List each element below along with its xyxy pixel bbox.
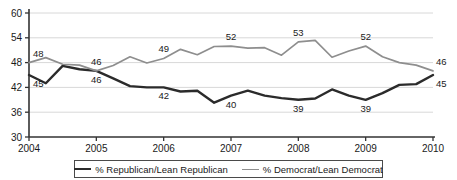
y-tick-label: 42 — [11, 82, 23, 93]
x-tick-label: 2004 — [18, 143, 41, 154]
x-tick-label: 2007 — [220, 143, 243, 154]
data-point-label: 42 — [158, 90, 169, 101]
series-lines — [29, 40, 433, 102]
y-tick-label: 54 — [11, 32, 23, 43]
legend-label-democrat: % Democrat/Lean Democrat — [263, 164, 383, 175]
y-axis: 303642485460 — [11, 8, 29, 143]
data-point-label: 53 — [293, 27, 304, 38]
data-point-label: 48 — [33, 48, 44, 59]
y-tick-label: 48 — [11, 57, 23, 68]
data-point-label: 39 — [293, 103, 304, 114]
x-tick-label: 2008 — [287, 143, 310, 154]
data-point-label: 46 — [91, 56, 102, 67]
chart-container: 303642485460 200420052006200720082009201… — [0, 0, 457, 180]
legend-item-republican: % Republican/Lean Republican — [74, 164, 228, 175]
legend-swatch-democrat — [242, 169, 259, 170]
data-point-label: 45 — [436, 78, 447, 89]
y-tick-label: 36 — [11, 107, 23, 118]
data-point-label: 46 — [436, 56, 447, 67]
legend-item-democrat: % Democrat/Lean Democrat — [242, 164, 383, 175]
data-point-label: 52 — [360, 31, 371, 42]
data-point-label: 45 — [33, 78, 44, 89]
data-point-label: 52 — [226, 31, 237, 42]
data-point-label: 39 — [360, 103, 371, 114]
data-point-label: 40 — [226, 99, 237, 110]
data-point-label: 49 — [158, 43, 169, 54]
legend-swatch-republican — [74, 168, 91, 170]
x-axis: 2004200520062007200820092010 — [18, 137, 445, 154]
x-tick-label: 2009 — [355, 143, 378, 154]
x-tick-label: 2010 — [422, 143, 445, 154]
y-tick-label: 60 — [11, 8, 23, 19]
data-point-label: 46 — [91, 74, 102, 85]
x-tick-label: 2006 — [153, 143, 176, 154]
line-chart-plot: 303642485460 200420052006200720082009201… — [0, 0, 457, 158]
y-tick-label: 30 — [11, 132, 23, 143]
x-tick-label: 2005 — [85, 143, 108, 154]
chart-legend: % Republican/Lean Republican % Democrat/… — [74, 160, 383, 178]
legend-label-republican: % Republican/Lean Republican — [95, 164, 228, 175]
